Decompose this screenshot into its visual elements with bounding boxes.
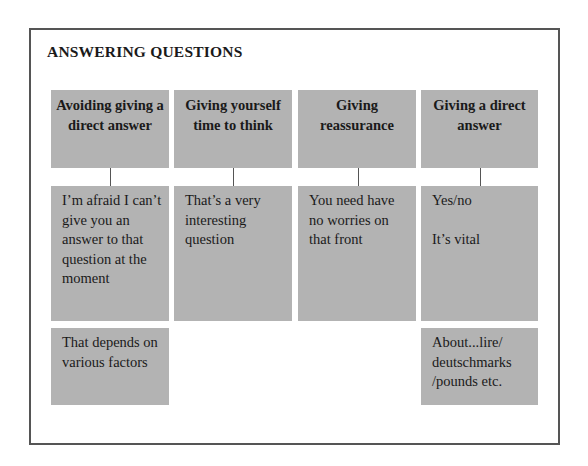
heading-text: Giving a direct answer [421,96,538,135]
diagram-title: ANSWERING QUESTIONS [47,43,242,61]
phrase-box: That’s a very interesting question [174,186,292,321]
heading-text: Giving yourself time to think [174,96,292,135]
heading-reassurance: Giving reassurance [298,90,416,168]
phrase-box: About...lire/ deutschmarks /pounds etc. [421,328,538,405]
connector-line [233,168,234,186]
heading-avoiding-direct-answer: Avoiding giving a direct answer [51,90,169,168]
connector-line [358,168,359,186]
heading-text: Avoiding giving a direct answer [51,96,169,135]
phrase-box: You need have no worries on that front [298,186,416,321]
phrase-box: Yes/no It’s vital [421,186,538,321]
connector-line [480,168,481,186]
heading-time-to-think: Giving yourself time to think [174,90,292,168]
heading-text: Giving reassurance [298,96,416,135]
heading-direct-answer: Giving a direct answer [421,90,538,168]
phrase-box: That depends on various factors [51,328,169,405]
phrase-box: I’m afraid I can’t give you an answer to… [51,186,169,321]
connector-line [110,168,111,186]
